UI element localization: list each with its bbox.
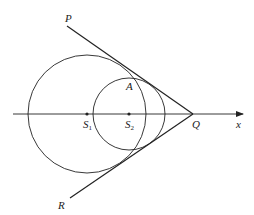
label-x: x — [235, 118, 241, 130]
geometry-diagram: P A Q x R S1 S2 — [0, 0, 254, 215]
point-S1 — [85, 112, 88, 115]
label-P: P — [64, 12, 72, 24]
label-Q: Q — [192, 118, 200, 130]
line-PQ — [67, 26, 193, 114]
diagram-canvas: P A Q x R S1 S2 — [0, 0, 254, 215]
label-S2: S2 — [125, 118, 135, 132]
label-R: R — [57, 199, 65, 211]
point-S2 — [127, 112, 130, 115]
label-A: A — [125, 80, 133, 92]
label-S1: S1 — [83, 118, 93, 132]
